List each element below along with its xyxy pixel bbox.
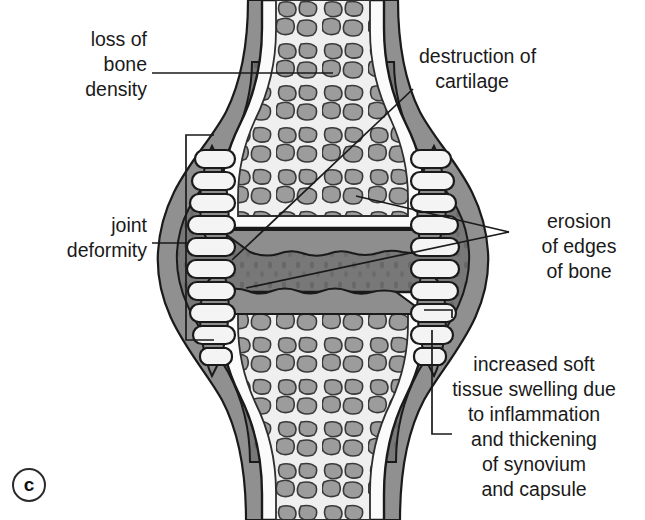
figure-panel: loss of bone density joint deformity des… (0, 0, 645, 520)
panel-letter-badge: c (12, 468, 46, 502)
label-erosion-of-edges-of-bone: erosion of edges of bone (515, 209, 643, 284)
label-joint-deformity: joint deformity (67, 213, 147, 263)
label-loss-of-bone-density: loss of bone density (85, 27, 147, 102)
label-destruction-of-cartilage: destruction of cartilage (419, 44, 536, 94)
label-increased-soft-tissue-swelling: increased soft tissue swelling due to in… (425, 352, 643, 502)
